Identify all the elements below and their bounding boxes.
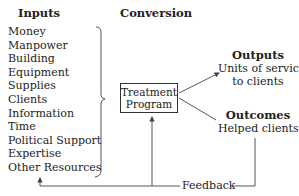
input-item: Information: [8, 107, 102, 121]
input-item: Building: [8, 52, 102, 66]
input-item: Supplies: [8, 79, 102, 93]
outcomes-heading: Outcomes: [218, 108, 298, 122]
input-item: Expertise: [8, 147, 102, 161]
conversion-heading: Conversion: [120, 6, 192, 20]
inputs-list: Money Manpower Building Equipment Suppli…: [8, 25, 102, 175]
input-item: Political Support: [8, 134, 102, 148]
input-item: Time: [8, 120, 102, 134]
outputs-line2: to clients: [218, 75, 298, 88]
outcomes-line1: Helped clients: [218, 122, 298, 135]
input-item: Money: [8, 25, 102, 39]
input-item: Clients: [8, 93, 102, 107]
arrow-to-outputs: [179, 73, 219, 93]
feedback-label: Feedback: [182, 179, 236, 192]
program-line1: Treatment: [121, 86, 177, 98]
feedback-line-left: [40, 178, 180, 186]
input-item: Equipment: [8, 66, 102, 80]
inputs-heading: Inputs: [18, 6, 60, 20]
treatment-program-box: Treatment Program: [120, 83, 178, 113]
outputs-heading: Outputs: [218, 48, 298, 62]
program-line2: Program: [121, 98, 177, 110]
input-item: Manpower: [8, 39, 102, 53]
line-to-outcomes: [179, 98, 216, 120]
input-item: Other Resources: [8, 161, 102, 175]
outputs-line1: Units of service: [218, 62, 298, 75]
outputs-block: Outputs Units of service to clients: [218, 48, 298, 89]
outcomes-block: Outcomes Helped clients: [218, 108, 298, 135]
